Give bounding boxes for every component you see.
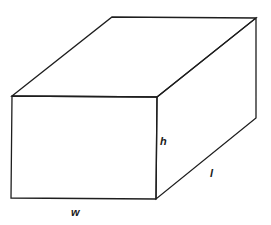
height-label: h	[160, 135, 167, 147]
side-face	[156, 18, 256, 199]
width-label: w	[71, 206, 81, 218]
front-face	[11, 96, 157, 199]
length-label: l	[210, 167, 214, 179]
cuboid-diagram: h l w	[0, 0, 271, 225]
top-face	[12, 17, 256, 97]
